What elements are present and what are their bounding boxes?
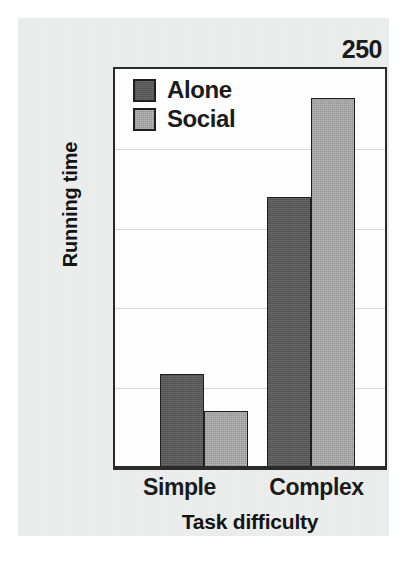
legend-item-alone: Alone bbox=[133, 78, 235, 102]
x-tick-label-complex: Complex bbox=[246, 474, 387, 501]
bar-chart-figure: 250 200 150 100 50 0 Running time bbox=[0, 0, 407, 571]
legend-swatch-alone-icon bbox=[133, 79, 156, 102]
x-axis-title: Task difficulty bbox=[113, 510, 387, 534]
x-axis-line bbox=[115, 466, 385, 468]
figure-panel: 250 200 150 100 50 0 Running time bbox=[18, 18, 389, 536]
x-tick-label-simple: Simple bbox=[113, 474, 246, 501]
legend-label-social: Social bbox=[167, 107, 235, 131]
legend: Alone Social bbox=[133, 78, 235, 136]
bar-alone-complex bbox=[267, 197, 311, 468]
legend-item-social: Social bbox=[133, 107, 235, 131]
bar-social-complex bbox=[311, 98, 355, 468]
plot-area: Alone Social bbox=[113, 67, 387, 470]
legend-swatch-social-icon bbox=[133, 108, 156, 131]
bar-alone-simple bbox=[160, 374, 204, 468]
bar-social-simple bbox=[204, 411, 248, 468]
y-axis-title: Running time bbox=[59, 95, 82, 315]
legend-label-alone: Alone bbox=[167, 78, 232, 102]
y-tick-label-250: 250 bbox=[301, 37, 389, 62]
